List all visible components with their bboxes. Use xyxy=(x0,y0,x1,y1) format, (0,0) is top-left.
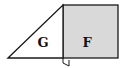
geometry-diagram: G F xyxy=(0,0,125,68)
right-angle-marker xyxy=(63,58,69,66)
square-f xyxy=(63,5,118,58)
label-g: G xyxy=(37,35,48,50)
label-f: F xyxy=(82,35,92,50)
triangle-g xyxy=(8,5,63,58)
